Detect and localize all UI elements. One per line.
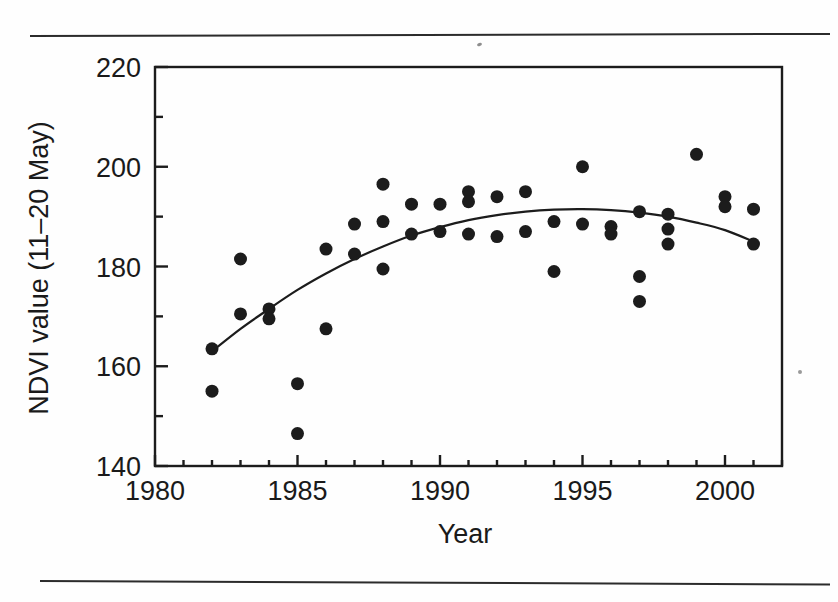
data-point: [747, 203, 760, 216]
data-point: [291, 427, 304, 440]
data-point: [548, 215, 561, 228]
x-tick-label: 1990: [410, 476, 470, 506]
data-point: [633, 270, 646, 283]
y-axis-ticks: [155, 67, 168, 466]
data-point: [690, 148, 703, 161]
data-point: [405, 198, 418, 211]
data-point: [662, 208, 675, 221]
data-point: [377, 262, 390, 275]
data-point: [291, 377, 304, 390]
data-point: [633, 205, 646, 218]
data-point: [576, 218, 589, 231]
data-point: [633, 295, 646, 308]
data-point: [662, 223, 675, 236]
data-point: [519, 225, 532, 238]
data-point: [747, 238, 760, 251]
data-point: [405, 228, 418, 241]
data-point: [491, 190, 504, 203]
y-tick-label: 160: [96, 352, 141, 382]
x-tick-label: 2000: [695, 476, 755, 506]
y-tick-label: 140: [96, 452, 141, 482]
data-point: [605, 228, 618, 241]
x-axis-title: Year: [438, 519, 493, 549]
data-point: [320, 243, 333, 256]
x-tick-label: 1995: [552, 476, 612, 506]
y-tick-label: 180: [96, 253, 141, 283]
data-point: [719, 200, 732, 213]
data-point: [263, 312, 276, 325]
x-axis-ticks: [155, 455, 782, 466]
data-point: [320, 322, 333, 335]
axis-frame: [155, 67, 782, 466]
data-point: [519, 185, 532, 198]
data-point: [462, 195, 475, 208]
data-point: [434, 198, 447, 211]
x-tick-label: 1985: [267, 476, 327, 506]
data-point: [348, 248, 361, 261]
data-point: [576, 160, 589, 173]
data-point: [377, 215, 390, 228]
scatter-plot: 19801985199019952000 140160180200220 Yea…: [0, 0, 838, 602]
data-point: [206, 385, 219, 398]
data-point: [548, 265, 561, 278]
data-point: [434, 225, 447, 238]
x-axis-tick-labels: 19801985199019952000: [125, 476, 755, 506]
data-points: [206, 148, 761, 440]
data-point: [206, 342, 219, 355]
data-point: [234, 307, 247, 320]
y-axis-tick-labels: 140160180200220: [96, 53, 141, 482]
data-point: [377, 178, 390, 191]
y-axis-title: NDVI value (11–20 May): [24, 121, 54, 415]
y-tick-label: 220: [96, 53, 141, 83]
data-point: [348, 218, 361, 231]
y-tick-label: 200: [96, 153, 141, 183]
data-point: [662, 238, 675, 251]
data-point: [462, 228, 475, 241]
data-point: [491, 230, 504, 243]
data-point: [234, 253, 247, 266]
figure-panel: 19801985199019952000 140160180200220 Yea…: [0, 0, 838, 602]
